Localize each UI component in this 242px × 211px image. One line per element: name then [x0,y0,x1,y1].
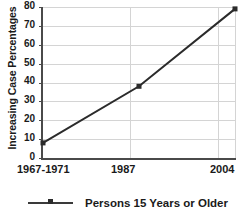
y-tick-label: 20 [24,114,35,124]
x-tick-label: 1987 [111,163,135,176]
plot-inner [43,7,236,158]
series-polyline [43,9,235,143]
data-point-marker [233,6,238,11]
y-tick-label: 50 [24,58,35,68]
y-tick-label: 60 [24,39,35,49]
x-tick-label: 1967-1971 [17,163,70,176]
y-tick-label: 0 [29,152,35,162]
data-point-marker [41,140,46,145]
y-axis-tick-labels: 80 70 60 50 40 30 20 10 0 [0,0,38,165]
line-chart: Increasing Case Percentages 80 70 60 50 … [0,0,242,211]
y-tick-label: 40 [24,76,35,86]
data-series-line [43,7,236,158]
plot-area [41,7,236,160]
data-point-marker [137,84,142,89]
y-tick-label: 10 [24,133,35,143]
chart-legend: Persons 15 Years or Older [0,194,242,211]
y-tick-label: 80 [24,1,35,11]
x-axis-tick-labels: 1967-1971 1987 2004 [0,163,242,179]
legend-square-marker-icon [48,199,53,204]
y-tick-label: 30 [24,95,35,105]
y-tick-label: 70 [24,20,35,30]
x-tick-label: 2004 [210,163,234,176]
legend-entry-label: Persons 15 Years or Older [85,196,228,210]
y-tick-mark [39,158,43,159]
